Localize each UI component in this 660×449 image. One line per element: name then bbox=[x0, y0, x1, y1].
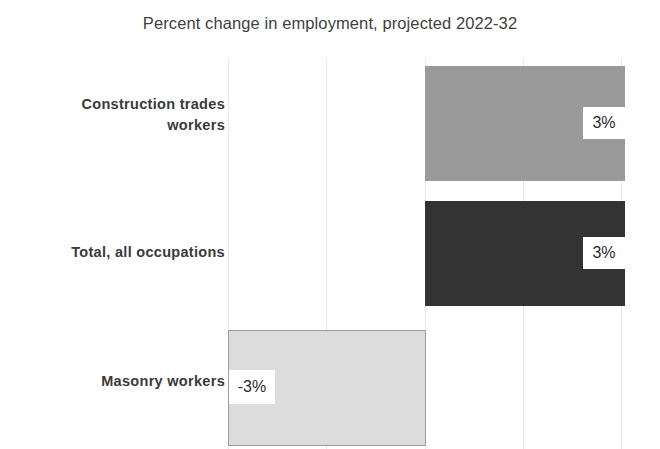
category-label-line-1: Masonry workers bbox=[0, 371, 225, 392]
chart-container: Percent change in employment, projected … bbox=[0, 0, 660, 449]
category-label-construction-trades-workers: Construction trades workers bbox=[0, 94, 225, 136]
category-label-masonry-workers: Masonry workers bbox=[0, 371, 225, 392]
category-label-line-1: Construction trades bbox=[0, 94, 225, 115]
category-label-line-1: Total, all occupations bbox=[0, 242, 225, 263]
category-label-line-2: workers bbox=[0, 115, 225, 136]
category-label-total-all-occupations: Total, all occupations bbox=[0, 242, 225, 263]
category-axis-labels: Construction trades workers Total, all o… bbox=[0, 58, 660, 449]
chart-title: Percent change in employment, projected … bbox=[0, 14, 660, 33]
